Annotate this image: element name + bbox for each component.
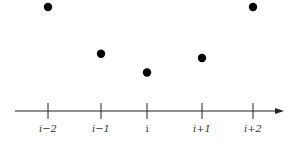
x-tick-label: i−1 xyxy=(92,123,110,134)
data-point xyxy=(198,54,206,62)
data-point xyxy=(44,3,52,11)
axis-arrowhead xyxy=(275,108,284,114)
x-tick-label: i xyxy=(145,123,148,134)
x-tick-label: i−2 xyxy=(39,123,57,134)
data-point xyxy=(143,68,151,76)
data-point xyxy=(249,3,257,11)
x-tick-label: i+1 xyxy=(193,123,211,134)
stencil-diagram: i−2i−1ii+1i+2 xyxy=(0,0,295,143)
x-tick-label: i+2 xyxy=(244,123,262,134)
data-point xyxy=(97,50,105,58)
x-axis xyxy=(15,108,284,114)
